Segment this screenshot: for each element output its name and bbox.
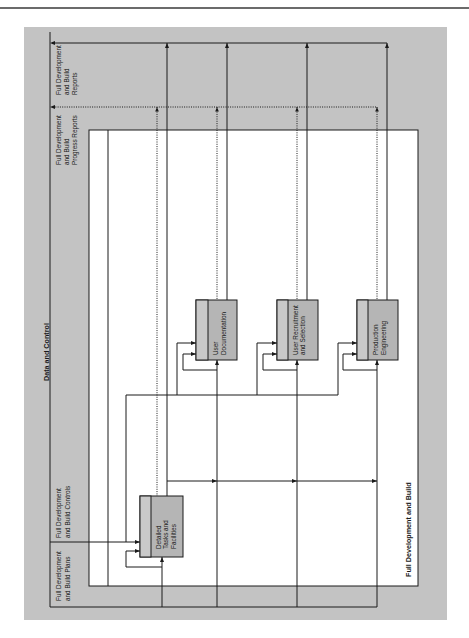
- activity-box-3[interactable]: User Recruitment and Selection: [277, 300, 318, 360]
- idef0-diagram: Detailed Tasks and Facilities User Docum…: [0, 0, 469, 638]
- progress-reports-label-line-2: and Build: [63, 138, 70, 165]
- controls-label-line-1: Full Development: [55, 488, 63, 538]
- activity-3-label-line-1: User Recruitment: [292, 305, 299, 355]
- activity-1-label-line-2: Tasks and: [162, 520, 169, 549]
- controls-label-line-2: and Build Controls: [64, 486, 71, 538]
- progress-reports-label-line-3: Progress Reports: [71, 115, 79, 165]
- activity-4-label-line-1: Production: [372, 324, 379, 355]
- progress-reports-label-line-1: Full Development: [55, 115, 63, 165]
- reports-label-line-3: Reports: [71, 73, 79, 95]
- activity-box-4[interactable]: Production Engineering: [357, 300, 398, 360]
- reports-label-line-1: Full Development: [55, 45, 63, 95]
- reports-label-line-2: and Build: [63, 68, 70, 95]
- inputs-label: Full Development and Build Plans: [55, 551, 71, 601]
- boundary-title: Full Development and Build: [404, 482, 413, 577]
- activity-4-label-line-2: Engineering: [380, 320, 388, 355]
- activity-3-label-line-2: and Selection: [299, 316, 306, 355]
- activity-1-label-line-1: Detailed: [155, 525, 162, 549]
- plans-label-line-2: and Build Plans: [64, 557, 71, 601]
- activity-box-1[interactable]: Detailed Tasks and Facilities: [140, 496, 183, 557]
- activity-2-label-line-1: User: [212, 341, 219, 355]
- activity-box-2[interactable]: User Documentation: [196, 300, 237, 360]
- activity-2-label-line-2: Documentation: [220, 312, 227, 355]
- data-and-control-heading: Data and Control: [42, 323, 51, 381]
- controls-label: Full Development and Build Controls: [55, 486, 71, 538]
- activity-1-label-line-3: Facilities: [170, 524, 177, 549]
- plans-label-line-1: Full Development: [55, 551, 63, 601]
